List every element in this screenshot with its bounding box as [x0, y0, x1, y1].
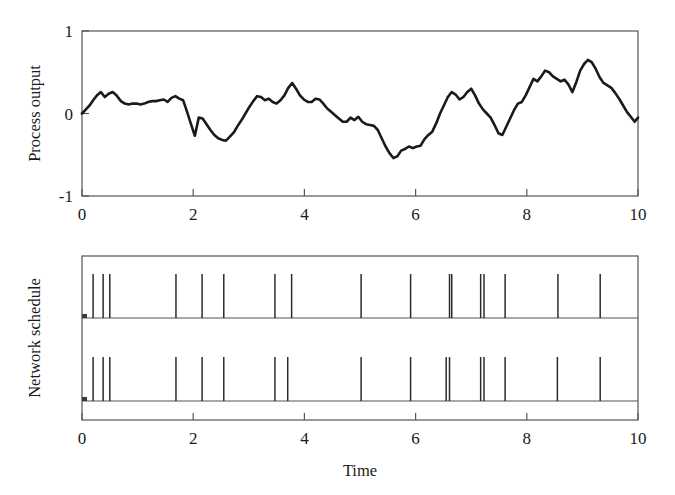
schedule-row-origin-marker-1: [82, 314, 87, 318]
top-panel-ylabel: Process output: [25, 65, 44, 162]
bottom-panel-xtick-label-3: 6: [411, 429, 420, 448]
top-panel-ytick-label-0: 1: [65, 22, 74, 41]
bottom-panel-xtick-label-4: 8: [523, 429, 532, 448]
bottom-panel-xtick-label-0: 0: [78, 429, 87, 448]
schedule-row-origin-marker-2: [82, 397, 87, 401]
bottom-panel-xtick-label-2: 4: [300, 429, 309, 448]
top-panel-xtick-label-2: 4: [300, 205, 309, 224]
chart-svg: 10-10246810Process output0246810Network …: [0, 0, 675, 495]
bottom-panel-xtick-label-5: 10: [630, 429, 647, 448]
top-panel-frame: [82, 31, 638, 196]
top-panel-ytick-label-1: 0: [65, 105, 74, 124]
top-panel-ytick-label-2: -1: [59, 187, 73, 206]
bottom-panel-xlabel: Time: [343, 461, 377, 480]
process-output-line: [82, 60, 638, 158]
figure-container: 10-10246810Process output0246810Network …: [0, 0, 675, 495]
bottom-panel-xtick-label-1: 2: [189, 429, 198, 448]
top-panel-xtick-label-1: 2: [189, 205, 198, 224]
top-panel-xtick-label-5: 10: [630, 205, 647, 224]
bottom-panel-ylabel: Network schedule: [25, 278, 44, 398]
top-panel-xtick-label-4: 8: [523, 205, 532, 224]
top-panel-xtick-label-3: 6: [411, 205, 420, 224]
top-panel-xtick-label-0: 0: [78, 205, 87, 224]
bottom-panel-frame: [82, 256, 638, 420]
